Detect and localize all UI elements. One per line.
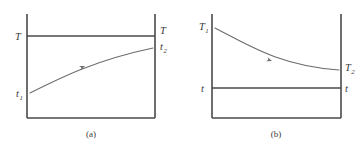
label-t-right: t [345,83,349,94]
panel-a-caption: (a) [86,129,96,139]
label-t-left: t [201,83,205,94]
label-t2: t2 [160,41,167,54]
label-T2: T2 [345,62,355,75]
temperature-diagram-figure: TTt1t2(a)T1T2tt(b) [0,0,364,146]
label-T-left: T [15,31,22,42]
label-T2-subscript: 2 [351,68,355,75]
label-t1: t1 [16,88,23,101]
label-T1-subscript: 1 [205,27,208,34]
label-t2-subscript: 2 [163,47,167,54]
panel-a: TTt1t2(a) [15,14,167,139]
panel-b-caption: (b) [271,129,282,139]
label-T-right: T [160,25,167,36]
panel-a-process-curve [30,48,153,93]
label-t1-subscript: 1 [19,94,22,101]
panel-b: T1T2tt(b) [199,14,355,139]
label-T1: T1 [199,21,209,34]
panels-layer: TTt1t2(a)T1T2tt(b) [15,14,355,139]
panel-b-flow-arrow-icon [266,57,273,63]
figure-container: TTt1t2(a)T1T2tt(b) [0,0,364,146]
panel-b-process-curve [215,28,339,70]
